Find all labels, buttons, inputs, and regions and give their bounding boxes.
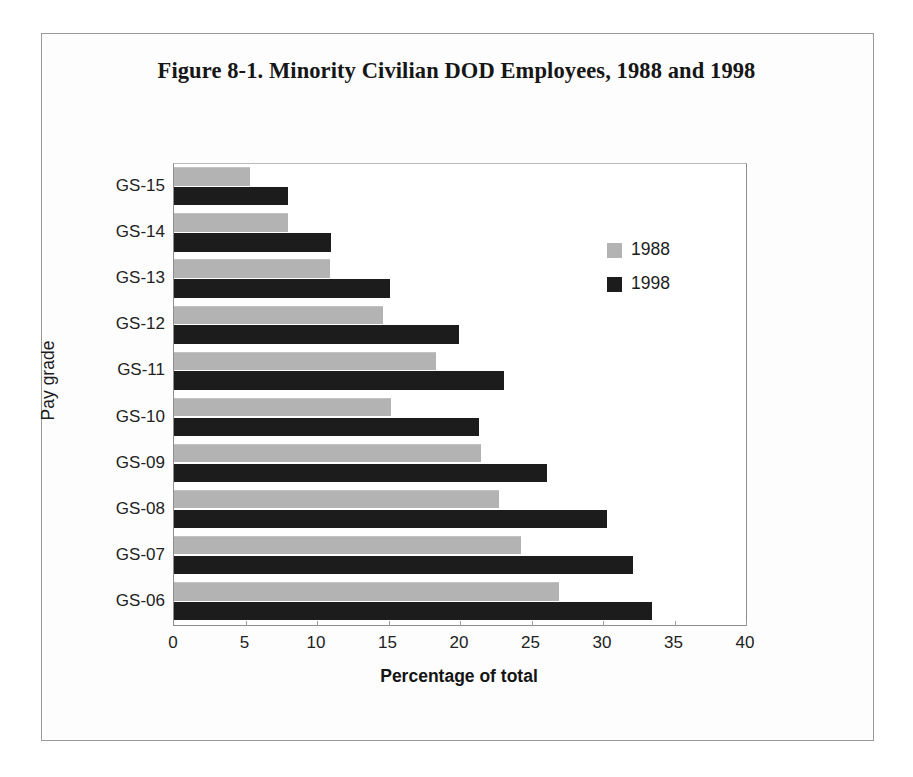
bar-gs-11-1998 bbox=[174, 371, 504, 389]
bar-gs-11-1988 bbox=[174, 352, 436, 370]
x-tick-mark-25 bbox=[532, 621, 533, 626]
y-tick-gs-07: GS-07 bbox=[73, 545, 165, 565]
x-tick-mark-30 bbox=[603, 621, 604, 626]
legend-item-1988: 1988 bbox=[607, 233, 727, 267]
y-tick-gs-06: GS-06 bbox=[73, 591, 165, 611]
legend-swatch-1988 bbox=[607, 243, 622, 258]
y-tick-gs-13: GS-13 bbox=[73, 268, 165, 288]
legend-label-1998: 1998 bbox=[631, 275, 670, 293]
bar-gs-08-1998 bbox=[174, 510, 607, 528]
x-tick-10: 10 bbox=[296, 633, 336, 653]
bar-group-gs-08 bbox=[174, 487, 746, 533]
y-axis-title: Pay grade bbox=[38, 291, 59, 471]
x-tick-40: 40 bbox=[725, 633, 765, 653]
bar-group-gs-06 bbox=[174, 579, 746, 625]
bar-gs-06-1998 bbox=[174, 602, 652, 620]
bar-gs-07-1998 bbox=[174, 556, 633, 574]
x-tick-30: 30 bbox=[582, 633, 622, 653]
bar-gs-07-1988 bbox=[174, 536, 521, 554]
x-tick-15: 15 bbox=[368, 633, 408, 653]
bar-gs-10-1988 bbox=[174, 398, 391, 416]
y-axis-tick-labels: GS-15GS-14GS-13GS-12GS-11GS-10GS-09GS-08… bbox=[65, 163, 165, 624]
bar-gs-10-1998 bbox=[174, 418, 479, 436]
x-tick-mark-15 bbox=[389, 621, 390, 626]
bar-gs-13-1998 bbox=[174, 279, 390, 297]
x-axis-title: Percentage of total bbox=[173, 666, 745, 687]
bar-group-gs-15 bbox=[174, 164, 746, 210]
x-tick-20: 20 bbox=[439, 633, 479, 653]
bar-gs-08-1988 bbox=[174, 490, 499, 508]
x-tick-mark-5 bbox=[246, 621, 247, 626]
x-tick-mark-35 bbox=[675, 621, 676, 626]
y-tick-gs-12: GS-12 bbox=[73, 314, 165, 334]
x-tick-mark-40 bbox=[746, 621, 747, 626]
bar-gs-09-1988 bbox=[174, 444, 481, 462]
bar-gs-13-1988 bbox=[174, 259, 330, 277]
page-title: Figure 8-1. Minority Civilian DOD Employ… bbox=[0, 58, 913, 84]
legend-item-1998: 1998 bbox=[607, 267, 727, 301]
y-tick-gs-11: GS-11 bbox=[73, 360, 165, 380]
bar-gs-15-1998 bbox=[174, 187, 288, 205]
bar-group-gs-07 bbox=[174, 533, 746, 579]
bar-group-gs-12 bbox=[174, 302, 746, 348]
bar-gs-06-1988 bbox=[174, 582, 559, 600]
x-tick-5: 5 bbox=[225, 633, 265, 653]
x-tick-35: 35 bbox=[654, 633, 694, 653]
x-tick-mark-20 bbox=[460, 621, 461, 626]
x-axis-tick-labels: 0510152025303540 bbox=[173, 633, 745, 657]
x-tick-0: 0 bbox=[153, 633, 193, 653]
legend-label-1988: 1988 bbox=[631, 241, 670, 259]
y-tick-gs-15: GS-15 bbox=[73, 176, 165, 196]
bar-group-gs-10 bbox=[174, 395, 746, 441]
bar-gs-12-1988 bbox=[174, 306, 383, 324]
figure-page: Figure 8-1. Minority Civilian DOD Employ… bbox=[0, 0, 913, 777]
bar-gs-09-1998 bbox=[174, 464, 547, 482]
y-tick-gs-09: GS-09 bbox=[73, 453, 165, 473]
bar-group-gs-09 bbox=[174, 441, 746, 487]
x-tick-25: 25 bbox=[511, 633, 551, 653]
y-tick-gs-08: GS-08 bbox=[73, 499, 165, 519]
x-tick-mark-10 bbox=[317, 621, 318, 626]
bar-gs-14-1998 bbox=[174, 233, 331, 251]
bar-group-gs-11 bbox=[174, 348, 746, 394]
y-tick-gs-10: GS-10 bbox=[73, 407, 165, 427]
bar-gs-14-1988 bbox=[174, 213, 288, 231]
chart-legend: 19881998 bbox=[607, 233, 727, 301]
y-tick-gs-14: GS-14 bbox=[73, 222, 165, 242]
bar-gs-12-1998 bbox=[174, 325, 459, 343]
legend-swatch-1998 bbox=[607, 277, 622, 292]
bar-gs-15-1988 bbox=[174, 167, 250, 185]
